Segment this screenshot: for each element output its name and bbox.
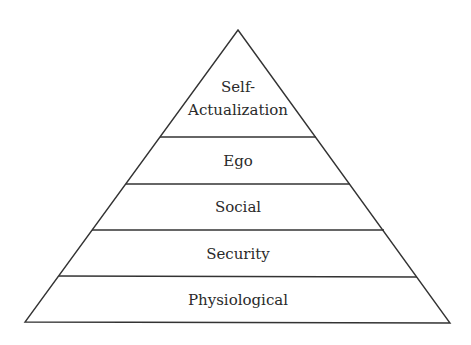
level-security: Security	[206, 245, 270, 263]
level-ego: Ego	[223, 152, 253, 170]
pyramid-diagram: Self- Actualization Ego Social Security …	[0, 0, 471, 345]
level-divider-4	[59, 276, 417, 277]
level-self-actualization-line2: Actualization	[187, 101, 288, 119]
pyramid-outline	[25, 30, 450, 323]
level-physiological: Physiological	[188, 291, 288, 309]
level-self-actualization-line1: Self-	[221, 78, 255, 96]
level-social: Social	[215, 198, 261, 216]
